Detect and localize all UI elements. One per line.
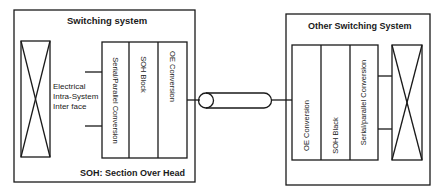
interface-label-line-1: Electrical: [53, 82, 98, 92]
interface-label: Electrical Intra-System Inter face: [53, 82, 98, 112]
left-block-serial-parallel: Serial/Parallel Conversion: [102, 42, 129, 158]
left-block-oe: OE Conversion: [158, 42, 187, 158]
soh-footnote: SOH: Section Over Head: [80, 168, 185, 178]
left-system-title: Switching system: [67, 15, 147, 26]
right-switch-fabric-icon: [392, 45, 422, 160]
left-switch-fabric-icon: [21, 41, 50, 157]
left-block-soh: SOH Block: [129, 42, 158, 158]
interface-label-line-3: Inter face: [53, 102, 98, 112]
right-system-title: Other Switching System: [308, 21, 412, 31]
right-block-serial-parallel: Serial/parallel Conversion: [350, 45, 378, 160]
right-block-soh: SOH Black: [321, 45, 350, 160]
interface-label-line-2: Intra-System: [53, 92, 98, 102]
right-block-oe: OE Conversion: [292, 45, 321, 160]
fiber-cable-icon: [187, 93, 292, 108]
